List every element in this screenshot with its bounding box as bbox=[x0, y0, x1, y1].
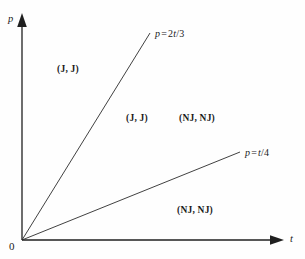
phase-diagram-figure: p t 0 p=2t/3 p=t/4 (J, J) (J, J) (NJ, NJ… bbox=[0, 0, 305, 259]
region-label-bottom: (NJ, NJ) bbox=[177, 206, 213, 216]
region-label-middle-left: (J, J) bbox=[126, 114, 148, 124]
line-label-upper: p=2t/3 bbox=[155, 29, 184, 39]
origin-label: 0 bbox=[9, 241, 15, 252]
plot-canvas bbox=[0, 0, 305, 259]
x-axis-arrow-icon bbox=[270, 235, 284, 245]
line-label-upper-denominator: /3 bbox=[176, 28, 184, 39]
x-axis-label: t bbox=[290, 234, 293, 245]
line-label-upper-operator: = bbox=[160, 28, 168, 39]
line-p-equals-2t-over-3 bbox=[22, 33, 150, 240]
line-label-lower-operator: = bbox=[250, 147, 258, 158]
line-p-equals-t-over-4 bbox=[22, 152, 240, 240]
line-label-lower: p=t/4 bbox=[245, 148, 269, 158]
region-label-upper-left: (J, J) bbox=[57, 65, 79, 75]
y-axis-arrow-icon bbox=[17, 13, 27, 27]
y-axis-label: p bbox=[8, 14, 13, 25]
region-label-middle-right: (NJ, NJ) bbox=[179, 114, 215, 124]
line-label-lower-denominator: /4 bbox=[261, 147, 269, 158]
